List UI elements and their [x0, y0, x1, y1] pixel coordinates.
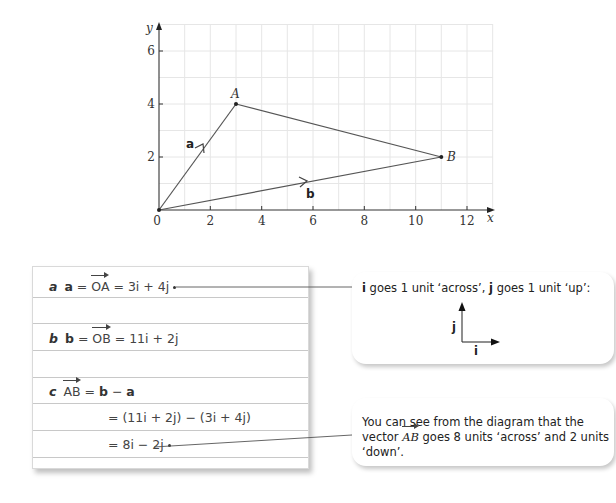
vector-oa: OA	[91, 279, 109, 294]
point-a	[234, 102, 238, 106]
ab-explanation-text: You can see from the diagram that the ve…	[362, 415, 612, 460]
equals: =	[74, 331, 92, 346]
y-tick-label: 4	[147, 97, 155, 111]
origin-label: 0	[153, 214, 161, 228]
j-arrow-icon	[459, 302, 466, 311]
grid	[159, 24, 493, 210]
i-label: i	[474, 344, 478, 358]
working-row-c-step1: = (11i + 2j) − (3i + 4j)	[108, 410, 251, 425]
vector-symbol: a	[126, 384, 134, 399]
expression: = (11i + 2j) − (3i + 4j)	[108, 410, 251, 425]
unit-vector-diagram: j i	[442, 298, 532, 358]
vector-b-label: b	[306, 187, 315, 201]
x-tick-label: 10	[408, 214, 423, 228]
part-label: b	[49, 331, 58, 346]
part-label: c	[49, 384, 56, 399]
vector-symbol: a	[64, 279, 72, 294]
minus: −	[108, 384, 126, 399]
vector-symbol: b	[99, 384, 108, 399]
ruled-line	[33, 297, 308, 298]
vector-graph: 0 2 4 6 8 10 12 2 4 6 y x A B a b	[0, 0, 616, 250]
vector-a-arrowhead-icon	[195, 144, 204, 153]
text: goes 1 unit ‘across’,	[366, 281, 489, 295]
y-tick-label: 6	[147, 44, 155, 58]
text: goes 1 unit ‘up’:	[493, 281, 590, 295]
equals: =	[73, 279, 91, 294]
connector-dot	[173, 286, 176, 289]
part-label: a	[49, 279, 57, 294]
x-tick-label: 2	[206, 214, 214, 228]
x-tick-label: 4	[258, 214, 266, 228]
expression: = 3i + 4j	[109, 279, 169, 294]
y-tick-label: 2	[147, 150, 155, 164]
ruled-line	[33, 430, 308, 431]
ab-explanation-callout: You can see from the diagram that the ve…	[352, 398, 614, 466]
vector-ab: AB	[402, 430, 419, 445]
working-row-c: cAB = b − a	[49, 384, 135, 399]
point-b	[439, 155, 443, 159]
unit-vector-text: i goes 1 unit ‘across’, j goes 1 unit ‘u…	[362, 281, 590, 295]
working-notepad: aa = OA = 3i + 4j bb = OB = 11i + 2j cAB…	[32, 266, 309, 469]
vector-ab: AB	[63, 384, 80, 399]
x-tick-label: 8	[360, 214, 368, 228]
point-o	[157, 208, 161, 212]
x-tick-label: 6	[309, 214, 317, 228]
vector-ob: OB	[92, 331, 110, 346]
vector-a-label: a	[186, 137, 194, 151]
vector-b-arrowhead-icon	[299, 177, 307, 187]
unit-vector-callout: i goes 1 unit ‘across’, j goes 1 unit ‘u…	[352, 272, 614, 364]
j-label: j	[451, 320, 456, 334]
x-tick-label: 12	[459, 214, 474, 228]
ruled-line	[33, 350, 308, 351]
ruled-line	[33, 377, 308, 378]
connector-dot	[168, 444, 171, 447]
ruled-line	[33, 457, 308, 458]
x-axis-label: x	[487, 211, 494, 225]
working-row-b: bb = OB = 11i + 2j	[49, 331, 178, 346]
expression: = 8i − 2j	[108, 437, 164, 452]
expression: = 11i + 2j	[111, 331, 179, 346]
point-a-label: A	[230, 87, 240, 101]
equals: =	[81, 384, 99, 399]
y-axis-label: y	[145, 21, 153, 35]
working-row-c-step2: = 8i − 2j	[108, 437, 171, 452]
ruled-line	[33, 403, 308, 404]
ruled-line	[33, 323, 308, 324]
point-b-label: B	[446, 150, 456, 164]
axes	[159, 28, 490, 210]
i-arrow-icon	[491, 339, 500, 346]
y-axis-arrow-icon	[156, 22, 162, 30]
vector-symbol: b	[65, 331, 74, 346]
working-row-a: aa = OA = 3i + 4j	[49, 279, 176, 294]
